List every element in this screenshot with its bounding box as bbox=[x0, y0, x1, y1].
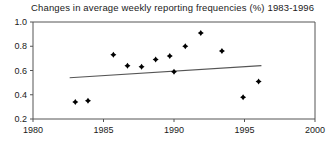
data-point-marker bbox=[198, 30, 204, 36]
trend-line bbox=[70, 66, 262, 78]
x-tick-label: 1980 bbox=[23, 125, 43, 135]
data-point-marker bbox=[124, 63, 130, 69]
data-point-marker bbox=[240, 94, 246, 100]
y-tick-label: 0.8 bbox=[14, 41, 27, 51]
x-tick-label: 1995 bbox=[234, 125, 254, 135]
data-point-marker bbox=[171, 69, 177, 75]
x-tick-label: 2000 bbox=[305, 125, 325, 135]
x-tick-label: 1990 bbox=[164, 125, 184, 135]
y-axis-ticks: 0.20.40.60.81.0 bbox=[14, 17, 33, 124]
y-tick-label: 1.0 bbox=[14, 17, 27, 27]
chart-container: Changes in average weekly reporting freq… bbox=[0, 0, 330, 145]
data-point-marker bbox=[72, 99, 78, 105]
scatter-plot: 0.20.40.60.81.0 19801985199019952000 bbox=[0, 0, 330, 145]
data-point-marker bbox=[110, 52, 116, 58]
y-tick-label: 0.2 bbox=[14, 114, 27, 124]
x-tick-label: 1985 bbox=[93, 125, 113, 135]
data-point-marker bbox=[139, 64, 145, 70]
y-tick-label: 0.6 bbox=[14, 66, 27, 76]
data-point-marker bbox=[153, 57, 159, 63]
data-point-marker bbox=[167, 53, 173, 59]
x-axis-ticks: 19801985199019952000 bbox=[23, 119, 325, 135]
data-point-marker bbox=[182, 43, 188, 49]
y-tick-label: 0.4 bbox=[14, 90, 27, 100]
data-point-marker bbox=[85, 98, 91, 104]
data-point-marker bbox=[256, 78, 262, 84]
data-point-marker bbox=[219, 48, 225, 54]
